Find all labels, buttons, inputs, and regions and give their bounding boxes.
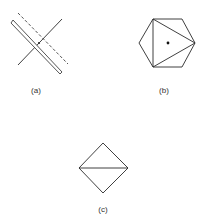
- figure-b: (b): [139, 19, 195, 95]
- figure-a-label: (a): [31, 86, 41, 95]
- intersection-point: [38, 42, 40, 44]
- inscribed-triangle: [153, 19, 195, 67]
- center-dot: [167, 42, 170, 45]
- figure-c-label: (c): [98, 205, 108, 214]
- solid-line: [18, 19, 62, 65]
- diagram-canvas: (a) (b) (c): [0, 0, 206, 222]
- figure-a: (a): [11, 13, 68, 95]
- figure-b-label: (b): [159, 86, 169, 95]
- figure-c: (c): [79, 143, 128, 214]
- wedge: [11, 20, 62, 74]
